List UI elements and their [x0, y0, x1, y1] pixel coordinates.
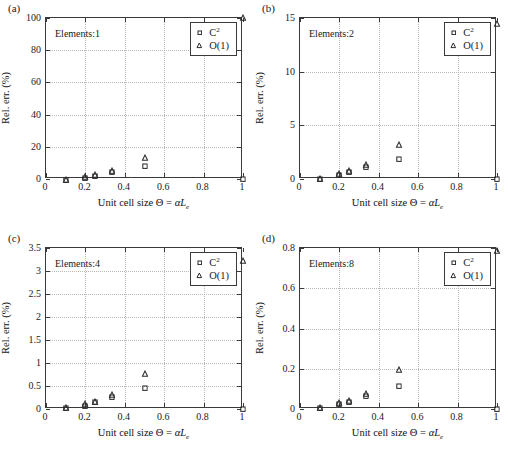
legend-label-c2: C2 — [209, 27, 220, 38]
x-tick — [85, 173, 86, 177]
data-point-square — [346, 161, 352, 179]
y-tick — [300, 329, 304, 330]
y-tick-label: 0 — [36, 173, 41, 184]
square-marker-icon — [195, 30, 204, 36]
x-tick-label: 0.2 — [332, 181, 345, 192]
data-point-triangle — [108, 161, 115, 179]
x-tick-label: 0.6 — [157, 411, 170, 422]
legend-row-o1: O(1) — [195, 39, 229, 52]
y-tick — [46, 248, 50, 249]
y-tick-right — [491, 125, 495, 126]
data-point-triangle — [92, 391, 99, 409]
gridline-vertical — [418, 248, 419, 407]
y-tick — [46, 115, 50, 116]
x-tick — [458, 173, 459, 177]
gridline-horizontal — [46, 363, 241, 364]
gridline-horizontal — [46, 317, 241, 318]
data-point-square — [362, 157, 368, 175]
legend: C2O(1) — [444, 22, 491, 56]
square-marker-icon — [449, 30, 458, 36]
y-tick-right — [491, 369, 495, 370]
x-tick-label: 0.4 — [118, 181, 131, 192]
x-tick-label: 0.4 — [372, 411, 385, 422]
gridline-horizontal — [46, 82, 241, 83]
legend-label-o1: O(1) — [463, 270, 483, 281]
data-point-triangle — [395, 359, 402, 377]
x-tick-top — [125, 248, 126, 252]
y-tick-right — [237, 18, 241, 19]
x-tick-top — [497, 18, 498, 22]
y-tick-label: 15 — [285, 12, 295, 23]
figure-container: (a)Elements:1C2O(1)00.20.40.60.810204060… — [0, 0, 508, 460]
x-tick — [46, 173, 47, 177]
gridline-vertical — [85, 18, 86, 177]
panel-a: (a)Elements:1C2O(1)00.20.40.60.810204060… — [0, 0, 254, 230]
y-tick — [300, 409, 304, 410]
y-tick-label: 1 — [36, 357, 41, 368]
y-tick-right — [237, 340, 241, 341]
y-tick — [46, 147, 50, 148]
x-tick-top — [418, 18, 419, 22]
data-point-triangle — [62, 169, 69, 187]
x-tick — [379, 173, 380, 177]
x-tick — [497, 173, 498, 177]
panel-label-c: (c) — [8, 232, 20, 244]
x-tick-label: 0 — [43, 181, 48, 192]
legend-row-o1: O(1) — [195, 269, 229, 282]
y-tick-right — [237, 294, 241, 295]
gridline-horizontal — [300, 288, 495, 289]
x-tick-label: 0 — [43, 411, 48, 422]
triangle-marker-icon — [195, 272, 204, 279]
x-tick — [164, 403, 165, 407]
plot-area-b: Elements:2C2O(1) — [299, 17, 496, 178]
x-tick-label: 1 — [494, 411, 499, 422]
panel-b: (b)Elements:2C2O(1)00.20.40.60.81051015U… — [254, 0, 508, 230]
x-tick-top — [125, 18, 126, 22]
x-tick-top — [164, 18, 165, 22]
y-tick-right — [237, 179, 241, 180]
x-tick — [379, 403, 380, 407]
y-tick-label: 3.5 — [29, 242, 42, 253]
square-marker-icon — [195, 260, 204, 266]
gridline-horizontal — [300, 125, 495, 126]
y-tick-right — [491, 288, 495, 289]
legend-label-c2: C2 — [463, 27, 474, 38]
legend: C2O(1) — [190, 252, 237, 286]
x-tick — [418, 173, 419, 177]
x-tick-label: 0.2 — [78, 411, 91, 422]
legend-row-c2: C2 — [449, 26, 483, 39]
y-tick — [46, 409, 50, 410]
x-tick-top — [339, 248, 340, 252]
gridline-horizontal — [46, 115, 241, 116]
gridline-horizontal — [46, 294, 241, 295]
y-tick — [300, 248, 304, 249]
y-tick-right — [237, 386, 241, 387]
elements-annotation: Elements:2 — [309, 28, 354, 39]
y-tick-label: 0.4 — [283, 322, 296, 333]
y-tick-label: 0 — [290, 403, 295, 414]
y-tick-right — [491, 329, 495, 330]
y-tick-label: 20 — [31, 140, 41, 151]
x-axis-title: Unit cell size Θ = αLe — [352, 427, 443, 438]
y-tick — [300, 125, 304, 126]
x-tick — [125, 403, 126, 407]
panel-label-d: (d) — [262, 232, 275, 244]
x-axis-title: Unit cell size Θ = αLe — [98, 197, 189, 208]
plot-area-c: Elements:4C2O(1) — [45, 247, 242, 408]
legend-row-c2: C2 — [195, 26, 229, 39]
triangle-marker-icon — [449, 42, 458, 49]
y-tick-right — [237, 147, 241, 148]
y-tick — [46, 271, 50, 272]
legend-label-c2: C2 — [209, 257, 220, 268]
x-tick-top — [85, 248, 86, 252]
y-tick — [46, 179, 50, 180]
data-point-square — [316, 398, 322, 416]
y-tick — [300, 179, 304, 180]
y-tick-right — [237, 317, 241, 318]
data-point-square — [108, 386, 114, 404]
y-tick-label: 2.5 — [29, 288, 42, 299]
x-tick-top — [497, 248, 498, 252]
y-tick-right — [491, 72, 495, 73]
elements-annotation: Elements:1 — [55, 28, 100, 39]
y-tick-right — [491, 179, 495, 180]
